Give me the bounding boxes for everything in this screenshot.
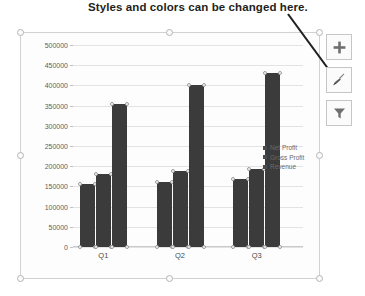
legend-swatch-icon [263,165,267,169]
selection-handle-bottom-left[interactable] [17,275,24,282]
data-point-handle[interactable] [263,245,267,249]
data-point-handle[interactable] [155,180,159,184]
selection-handle-top-right[interactable] [316,29,323,36]
y-axis-tick-label: 350000 [45,102,68,109]
chart-legend[interactable]: Net ProfitGross ProfitRevenue [263,143,304,172]
bar-revenue-q2[interactable] [189,85,204,247]
legend-item-gross-profit[interactable]: Gross Profit [263,153,304,163]
chart-elements-button[interactable] [326,34,352,60]
data-point-handle[interactable] [125,245,129,249]
selection-handle-bottom-right[interactable] [316,275,323,282]
y-axis-tick-label: 50000 [49,223,68,230]
data-point-handle[interactable] [187,83,191,87]
data-point-handle[interactable] [231,245,235,249]
data-point-handle[interactable] [78,245,82,249]
data-point-handle[interactable] [247,167,251,171]
y-axis-tick-label: 200000 [45,163,68,170]
y-axis-tick-mark [70,207,73,208]
y-axis-tick-label: 300000 [45,122,68,129]
bar-revenue-q1[interactable] [112,104,127,247]
y-axis-tick-label: 250000 [45,143,68,150]
y-axis-tick-mark [70,186,73,187]
y-axis-tick-mark [70,146,73,147]
x-axis-label-q3: Q3 [233,251,280,260]
legend-swatch-icon [263,146,267,150]
y-axis-tick-mark [70,227,73,228]
y-axis-tick-label: 150000 [45,183,68,190]
y-axis-tick-mark [70,65,73,66]
bar-net-profit-q1[interactable] [80,184,95,247]
chart-styles-button[interactable] [326,67,352,93]
bar-net-profit-q2[interactable] [157,182,172,247]
legend-swatch-icon [263,155,267,159]
data-point-handle[interactable] [231,177,235,181]
data-point-handle[interactable] [125,102,129,106]
data-point-handle[interactable] [94,245,98,249]
chart-tools-toolbar[interactable] [326,34,352,126]
y-axis-tick-mark [70,126,73,127]
y-axis-tick-label: 0 [64,244,68,251]
y-axis-tick-mark [70,106,73,107]
chart-filters-button[interactable] [326,100,352,126]
y-axis-tick-mark [70,247,73,248]
data-point-handle[interactable] [110,102,114,106]
data-point-handle[interactable] [171,245,175,249]
data-point-handle[interactable] [155,245,159,249]
y-axis-tick-mark [70,166,73,167]
data-point-handle[interactable] [202,245,206,249]
legend-label: Revenue [270,162,296,172]
bar-group: Q2 [157,45,204,247]
paintbrush-icon [331,72,347,88]
bar-gross-profit-q2[interactable] [173,171,188,247]
y-axis-tick-label: 100000 [45,203,68,210]
plus-icon [332,40,347,55]
data-point-handle[interactable] [202,83,206,87]
data-point-handle[interactable] [171,169,175,173]
y-axis-tick-label: 400000 [45,82,68,89]
y-axis-tick-mark [70,85,73,86]
data-point-handle[interactable] [94,172,98,176]
bar-net-profit-q3[interactable] [233,179,248,247]
data-point-handle[interactable] [278,71,282,75]
legend-item-net-profit[interactable]: Net Profit [263,143,304,153]
selection-handle-middle-right[interactable] [316,152,323,159]
data-point-handle[interactable] [278,245,282,249]
data-point-handle[interactable] [263,71,267,75]
chart-object[interactable]: 0500001000001500002000002500003000003500… [20,32,320,279]
data-point-handle[interactable] [247,245,251,249]
bar-group: Q1 [80,45,127,247]
x-axis-label-q1: Q1 [80,251,127,260]
annotation-label: Styles and colors can be changed here. [88,1,308,13]
selection-handle-top-center[interactable] [166,29,173,36]
data-point-handle[interactable] [110,245,114,249]
selection-handle-bottom-center[interactable] [166,275,173,282]
data-point-handle[interactable] [78,182,82,186]
selection-handle-top-left[interactable] [17,29,24,36]
data-point-handle[interactable] [187,245,191,249]
bar-gross-profit-q3[interactable] [249,169,264,247]
legend-label: Net Profit [270,143,297,153]
selection-handle-middle-left[interactable] [17,152,24,159]
legend-item-revenue[interactable]: Revenue [263,162,304,172]
bar-gross-profit-q1[interactable] [96,174,111,247]
y-axis-tick-label: 500000 [45,42,68,49]
legend-label: Gross Profit [270,153,304,163]
y-axis-tick-mark [70,45,73,46]
x-axis-label-q2: Q2 [157,251,204,260]
chart-plot-area-container: 0500001000001500002000002500003000003500… [21,33,319,278]
funnel-icon [332,106,347,121]
y-axis-tick-label: 450000 [45,62,68,69]
